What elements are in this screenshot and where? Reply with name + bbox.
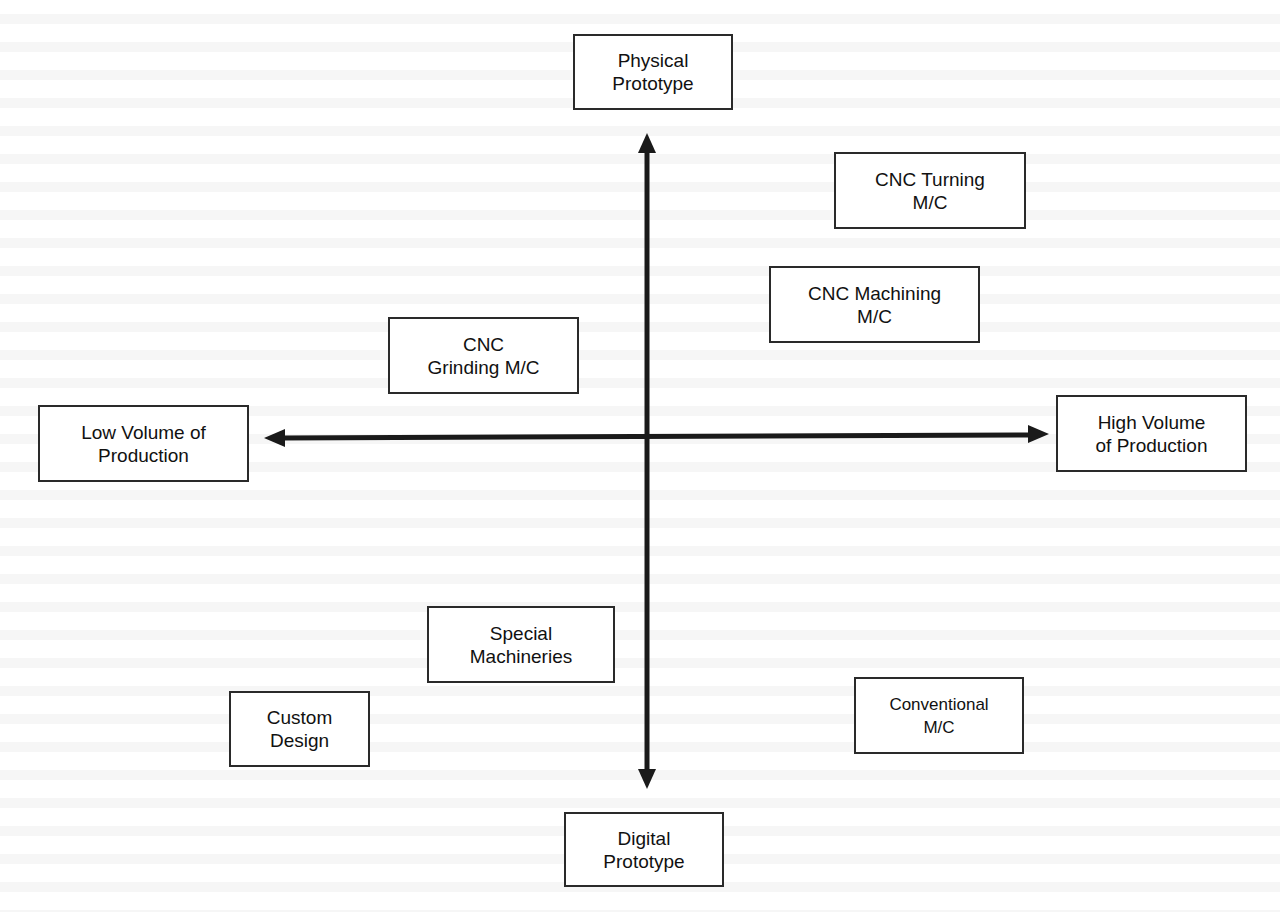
arrow-left-icon <box>264 429 285 447</box>
node-label-line: M/C <box>923 716 954 739</box>
node-label-line: Custom <box>267 706 332 729</box>
node-cnc-machining: CNC Machining M/C <box>769 266 980 343</box>
vertical-axis <box>638 133 656 789</box>
node-custom-design: Custom Design <box>229 691 370 767</box>
node-label-line: Design <box>270 729 329 752</box>
arrow-up-icon <box>638 133 656 153</box>
axis-label-line: Production <box>98 444 189 467</box>
node-special-machineries: Special Machineries <box>427 606 615 683</box>
horizontal-axis-line <box>282 435 1032 438</box>
node-label-line: Grinding M/C <box>428 356 540 379</box>
axis-label-line: High Volume <box>1098 411 1206 434</box>
node-label-line: Special <box>490 622 552 645</box>
node-label-line: CNC Machining <box>808 282 941 305</box>
arrow-right-icon <box>1028 425 1049 443</box>
horizontal-axis <box>264 425 1049 447</box>
axis-label-high-volume-production: High Volume of Production <box>1056 395 1247 472</box>
axis-label-physical-prototype: Physical Prototype <box>573 34 733 110</box>
axis-label-low-volume-production: Low Volume of Production <box>38 405 249 482</box>
axis-label-digital-prototype: Digital Prototype <box>564 812 724 887</box>
axis-label-line: Low Volume of <box>81 421 206 444</box>
axis-label-line: Digital <box>618 827 671 850</box>
node-label-line: M/C <box>857 305 892 328</box>
node-cnc-turning: CNC Turning M/C <box>834 152 1026 229</box>
node-label-line: CNC <box>463 333 504 356</box>
axis-label-line: Prototype <box>603 850 684 873</box>
node-label-line: Conventional <box>889 693 988 716</box>
node-cnc-grinding: CNC Grinding M/C <box>388 317 579 394</box>
axis-label-line: Prototype <box>612 72 693 95</box>
node-label-line: Machineries <box>470 645 572 668</box>
axis-label-line: of Production <box>1096 434 1208 457</box>
arrow-down-icon <box>638 769 656 789</box>
axis-label-line: Physical <box>618 49 689 72</box>
node-conventional-mc: Conventional M/C <box>854 677 1024 754</box>
node-label-line: M/C <box>913 191 948 214</box>
node-label-line: CNC Turning <box>875 168 985 191</box>
